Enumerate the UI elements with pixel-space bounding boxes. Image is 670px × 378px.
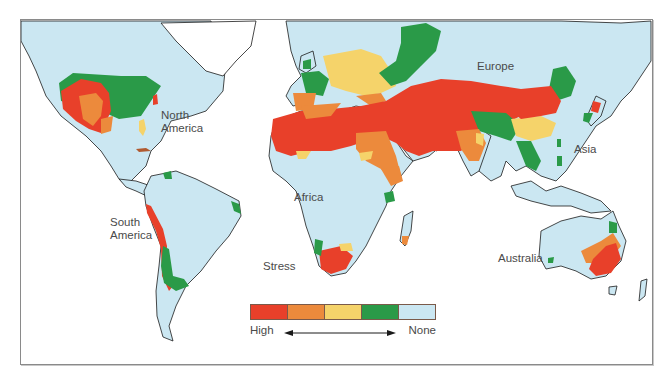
legend-label-none: None	[409, 324, 437, 336]
label-europe: Europe	[477, 60, 514, 73]
stress-region-aus-green-ne	[609, 221, 617, 233]
double-arrow-icon	[284, 330, 396, 336]
legend-swatch-high	[251, 305, 288, 319]
label-south-america-line1: South	[110, 216, 152, 229]
stress-legend: High None	[250, 304, 436, 342]
legend-swatch-low	[362, 305, 399, 319]
new-zealand-landmass	[639, 279, 647, 301]
legend-swatch-none	[399, 305, 435, 319]
stress-region-aus-green-sw	[548, 257, 554, 263]
label-north-america: North America	[161, 109, 203, 135]
southeast-asia-islands	[511, 181, 611, 213]
tasmania-landmass	[609, 286, 617, 295]
label-asia: Asia	[574, 143, 596, 156]
label-north-america-line2: America	[161, 122, 203, 135]
label-africa: Africa	[294, 191, 323, 204]
stress-region-east-africa-green	[384, 191, 395, 203]
legend-labels: High None	[250, 324, 436, 342]
stress-region-taiwan	[557, 139, 561, 147]
legend-color-bar	[250, 304, 436, 320]
south-america-landmass	[144, 171, 241, 341]
stress-region-madagascar	[402, 236, 409, 245]
label-australia: Australia	[498, 252, 543, 265]
label-stress: Stress	[263, 260, 296, 273]
legend-label-high: High	[250, 324, 274, 336]
legend-swatch-moderate	[325, 305, 362, 319]
label-south-america: South America	[110, 216, 152, 242]
stress-region-philippines	[557, 156, 562, 166]
label-south-america-line2: America	[110, 229, 152, 242]
stress-region-sa-africa-yellow	[339, 243, 353, 251]
map-frame: North America South America Africa Europ…	[20, 19, 653, 365]
label-north-america-line1: North	[161, 109, 203, 122]
legend-swatch-moderately-high	[288, 305, 325, 319]
